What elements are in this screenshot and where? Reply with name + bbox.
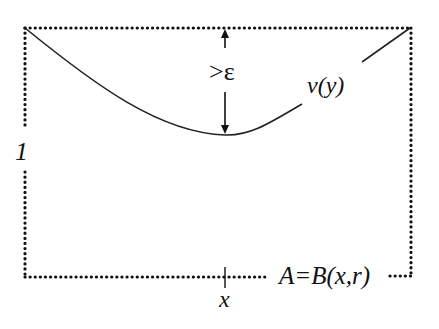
point-x-label: x [218,286,230,312]
arrow-up-icon [221,29,229,38]
arrow-down-icon [221,125,229,134]
epsilon-label: >ε [209,57,235,86]
curve-left-segment [25,28,302,135]
set-label: A=B(x,r) [277,262,370,290]
curve-label: v(y) [307,72,344,98]
diagram-canvas: >ε v(y) 1 x A=B(x,r) [0,0,439,329]
curve-right-segment [362,28,410,62]
side-length-label: 1 [15,137,28,166]
